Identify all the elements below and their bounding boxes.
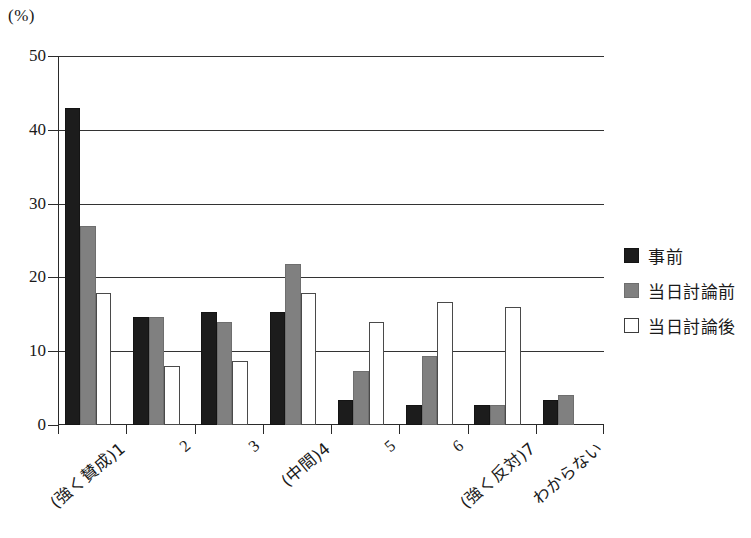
- bar-group: [65, 56, 112, 425]
- x-axis-label-6: 6: [449, 436, 468, 457]
- legend-item: 当日討論後: [624, 310, 749, 340]
- y-tickmark-30: [48, 204, 58, 205]
- bar: [406, 405, 422, 425]
- y-tickmark-20: [48, 277, 58, 278]
- chart-legend: 事前当日討論前当日討論後: [624, 240, 749, 345]
- x-axis-labels: (強く賛成)123(中間)456(強く反対)7わからない: [58, 436, 678, 536]
- y-tickmark-0: [48, 425, 58, 426]
- y-tick-label-30: 30: [6, 194, 46, 214]
- y-tick-label-0: 0: [6, 415, 46, 435]
- y-tickmark-10: [48, 351, 58, 352]
- y-tick-label-20: 20: [6, 267, 46, 287]
- x-tickmark-6: [468, 425, 469, 434]
- bar: [558, 395, 574, 425]
- bars-layer: [58, 56, 604, 425]
- bar-group: [338, 56, 385, 425]
- bar-group: [270, 56, 317, 425]
- filled-gray-square-icon: [624, 283, 639, 298]
- bar: [164, 366, 180, 425]
- y-axis-unit-label: (%): [8, 6, 35, 26]
- bar: [437, 302, 453, 425]
- x-axis-label-2: 2: [176, 436, 195, 457]
- x-tickmark-4: [331, 425, 332, 434]
- bar: [338, 400, 354, 425]
- x-axis-label-4: (中間)4: [275, 436, 334, 491]
- bar: [232, 361, 248, 425]
- x-tickmark-8: [603, 425, 604, 434]
- bar: [301, 293, 317, 425]
- y-tick-label-50: 50: [6, 46, 46, 66]
- bar: [369, 322, 385, 425]
- bar-chart: (%) 01020304050 (強く賛成)123(中間)456(強く反対)7わ…: [0, 0, 751, 538]
- x-axis-ticks: [58, 425, 604, 434]
- bar: [65, 108, 81, 425]
- x-tickmark-1: [126, 425, 127, 434]
- bar-group: [474, 56, 521, 425]
- bar-group: [406, 56, 453, 425]
- x-axis-label-1: (強く賛成)1: [44, 436, 129, 513]
- x-axis-label-3: 3: [244, 436, 263, 457]
- legend-label: 当日討論前: [648, 278, 736, 303]
- x-tickmark-7: [536, 425, 537, 434]
- bar: [285, 264, 301, 425]
- bar: [201, 312, 217, 425]
- y-tick-label-10: 10: [6, 341, 46, 361]
- bar-group: [201, 56, 248, 425]
- bar: [80, 226, 96, 425]
- bar: [353, 371, 369, 425]
- legend-label: 当日討論後: [648, 313, 736, 338]
- x-axis-label-5: 5: [381, 436, 400, 457]
- y-tickmark-50: [48, 56, 58, 57]
- bar: [96, 293, 112, 425]
- bar: [422, 356, 438, 425]
- bar: [474, 405, 490, 425]
- x-tickmark-5: [399, 425, 400, 434]
- x-tickmark-0: [58, 425, 59, 434]
- bar: [133, 317, 149, 425]
- bar-group: [133, 56, 180, 425]
- x-axis-label-8: わからない: [527, 436, 608, 509]
- y-axis-labels: 01020304050: [0, 56, 46, 425]
- bar-group: [543, 56, 590, 425]
- x-tickmark-2: [195, 425, 196, 434]
- bar: [490, 405, 506, 425]
- bar: [543, 400, 559, 425]
- y-tickmark-40: [48, 130, 58, 131]
- bar: [270, 312, 286, 425]
- open-white-square-icon: [624, 318, 639, 333]
- y-tick-label-40: 40: [6, 120, 46, 140]
- x-axis-label-7: (強く反対)7: [454, 436, 539, 513]
- legend-item: 事前: [624, 240, 749, 270]
- legend-item: 当日討論前: [624, 275, 749, 305]
- x-tickmark-3: [263, 425, 264, 434]
- bar: [505, 307, 521, 425]
- filled-black-square-icon: [624, 248, 639, 263]
- bar: [217, 322, 233, 425]
- legend-label: 事前: [648, 243, 683, 268]
- bar: [149, 317, 165, 425]
